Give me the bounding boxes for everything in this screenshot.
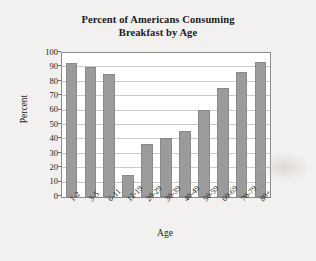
y-tick-label: 90 (38, 62, 58, 71)
bar (236, 72, 248, 197)
plot-area (61, 52, 271, 198)
bar (255, 62, 267, 197)
y-tick-label: 80 (38, 77, 58, 86)
y-tick-label: 10 (38, 177, 58, 186)
y-axis-title: Percent (19, 79, 29, 139)
x-axis-tick-labels: 1-23-56-1112-1920-2930-3940-4950-5960-69… (61, 197, 269, 227)
bar (217, 88, 229, 197)
bars-layer (62, 53, 270, 197)
y-tick-label: 40 (38, 134, 58, 143)
y-tick-label: 60 (38, 105, 58, 114)
chart-title-line-1: Percent of Americans Consuming (82, 14, 235, 25)
chart-title: Percent of Americans Consuming Breakfast… (40, 14, 276, 39)
y-tick-label: 70 (38, 91, 58, 100)
y-tick-label: 20 (38, 163, 58, 172)
bar (103, 74, 115, 197)
bar (85, 67, 97, 197)
y-tick-label: 30 (38, 149, 58, 158)
x-axis-title: Age (61, 228, 269, 238)
bar (66, 63, 78, 197)
bar (198, 110, 210, 197)
y-tick-label: 0 (38, 192, 58, 201)
y-tick-label: 50 (38, 120, 58, 129)
chart-title-line-2: Breakfast by Age (40, 27, 276, 40)
y-axis-tick-labels: 0102030405060708090100 (34, 52, 58, 196)
y-tick-label: 100 (38, 48, 58, 57)
chart-figure: Percent of Americans Consuming Breakfast… (0, 0, 316, 261)
bar (179, 131, 191, 197)
